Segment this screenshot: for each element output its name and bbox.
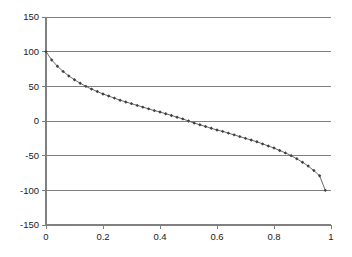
y-axis-labels: 150100500-50-100-150: [20, 11, 39, 230]
x-axis-ticks: [46, 225, 331, 229]
x-tick-label: 0.2: [96, 231, 109, 242]
x-tick-label: 0: [43, 231, 48, 242]
x-axis-labels: 00.20.40.60.81: [43, 231, 333, 242]
x-tick-label: 1: [328, 231, 333, 242]
y-tick-label: 0: [34, 115, 39, 126]
x-tick-label: 0.6: [210, 231, 223, 242]
y-tick-label: 150: [23, 11, 39, 22]
y-axis-ticks: [42, 17, 46, 225]
line-chart: 150100500-50-100-150 00.20.40.60.81: [0, 0, 352, 257]
chart-container: 150100500-50-100-150 00.20.40.60.81: [0, 0, 352, 257]
y-tick-label: -50: [25, 150, 39, 161]
x-tick-label: 0.4: [153, 231, 166, 242]
y-tick-label: -100: [20, 185, 39, 196]
y-tick-label: 50: [28, 81, 39, 92]
y-tick-label: 100: [23, 46, 39, 57]
x-tick-label: 0.8: [267, 231, 280, 242]
y-tick-label: -150: [20, 219, 39, 230]
